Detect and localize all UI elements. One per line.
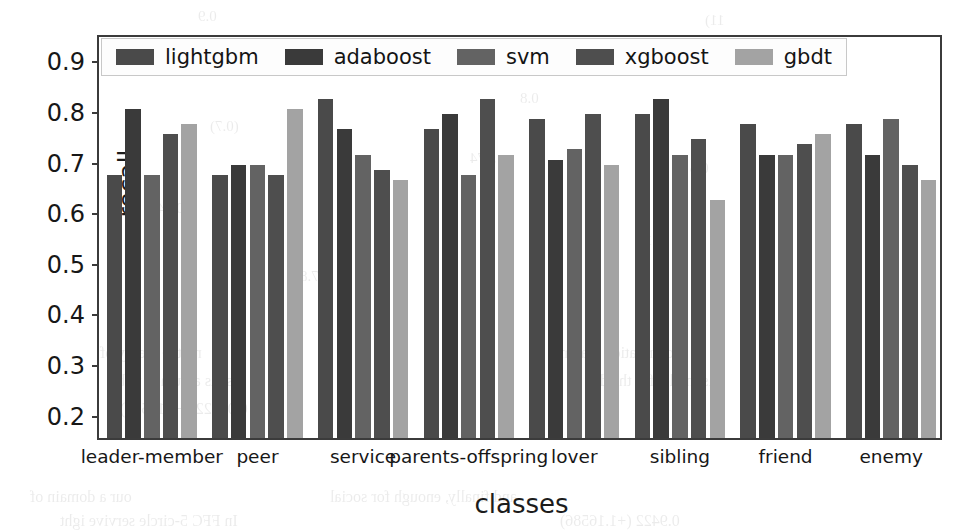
y-tick-0.2: 0.2 — [47, 405, 99, 429]
bar-svm-enemy — [883, 119, 899, 438]
y-tick-label: 0.4 — [47, 303, 92, 327]
legend-swatch-icon — [285, 49, 323, 65]
x-tick-label-friend: friend — [759, 446, 813, 467]
y-tick-mark — [92, 264, 99, 266]
y-tick-0.9: 0.9 — [47, 50, 99, 74]
bar-adaboost-peer — [231, 165, 247, 438]
bar-gbdt-enemy — [921, 180, 937, 438]
bar-svm-lover — [567, 149, 583, 438]
legend-label: svm — [506, 47, 550, 68]
bar-lightgbm-peer — [212, 175, 228, 438]
y-tick-0.7: 0.7 — [47, 152, 99, 176]
bar-gbdt-lover — [604, 165, 620, 438]
y-tick-label: 0.2 — [47, 405, 92, 429]
y-tick-label: 0.7 — [47, 152, 92, 176]
legend-label: adaboost — [334, 47, 431, 68]
bar-xgboost-parents-offspring — [480, 99, 496, 438]
bar-lightgbm-parents-offspring — [424, 129, 440, 438]
bar-adaboost-friend — [759, 155, 775, 439]
y-tick-0.8: 0.8 — [47, 101, 99, 125]
bar-lightgbm-enemy — [846, 124, 862, 438]
legend-item-gbdt[interactable]: gbdt — [735, 47, 832, 68]
bar-svm-service — [355, 155, 371, 439]
bar-adaboost-parents-offspring — [442, 114, 458, 438]
legend-swatch-icon — [457, 49, 495, 65]
bar-xgboost-service — [374, 170, 390, 438]
bar-xgboost-enemy — [902, 165, 918, 438]
bar-svm-friend — [778, 155, 794, 439]
bar-lightgbm-sibling — [635, 114, 651, 438]
x-tick-label-service: service — [330, 446, 396, 467]
y-tick-mark — [92, 416, 99, 418]
legend-item-xgboost[interactable]: xgboost — [576, 47, 709, 68]
bar-svm-parents-offspring — [461, 175, 477, 438]
x-tick-label-enemy: enemy — [859, 446, 922, 467]
y-tick-mark — [92, 61, 99, 63]
bar-svm-peer — [250, 165, 266, 438]
y-tick-mark — [92, 213, 99, 215]
bar-gbdt-friend — [815, 134, 831, 438]
bar-gbdt-parents-offspring — [498, 155, 514, 439]
bar-xgboost-peer — [268, 175, 284, 438]
legend-label: gbdt — [784, 47, 832, 68]
bar-adaboost-sibling — [653, 99, 669, 438]
plot-area: recall 0.90.80.70.60.50.40.30.2 leader-m… — [97, 35, 942, 440]
x-tick-label-parents-offspring: parents-offspring — [389, 446, 548, 467]
y-tick-mark — [92, 163, 99, 165]
chart-legend: lightgbmadaboostsvmxgboostgbdt — [101, 38, 847, 76]
bar-gbdt-leader-member — [181, 124, 197, 438]
legend-item-svm[interactable]: svm — [457, 47, 550, 68]
bar-lightgbm-lover — [529, 119, 545, 438]
y-tick-0.4: 0.4 — [47, 303, 99, 327]
bar-xgboost-friend — [797, 144, 813, 438]
y-tick-0.3: 0.3 — [47, 354, 99, 378]
y-tick-0.6: 0.6 — [47, 202, 99, 226]
y-tick-mark — [92, 314, 99, 316]
x-tick-label-leader-member: leader-member — [81, 446, 223, 467]
bar-adaboost-service — [337, 129, 353, 438]
bar-adaboost-lover — [548, 160, 564, 438]
legend-swatch-icon — [735, 49, 773, 65]
x-axis-title: classes — [99, 489, 944, 519]
bar-lightgbm-leader-member — [107, 175, 123, 438]
x-tick-label-sibling: sibling — [650, 446, 710, 467]
y-tick-mark — [92, 365, 99, 367]
y-tick-mark — [92, 112, 99, 114]
bars-layer — [99, 37, 940, 438]
bar-svm-leader-member — [144, 175, 160, 438]
bar-lightgbm-friend — [740, 124, 756, 438]
bar-adaboost-leader-member — [125, 109, 141, 438]
y-tick-0.5: 0.5 — [47, 253, 99, 277]
y-tick-label: 0.9 — [47, 50, 92, 74]
legend-item-adaboost[interactable]: adaboost — [285, 47, 431, 68]
bar-xgboost-leader-member — [163, 134, 179, 438]
legend-label: lightgbm — [165, 47, 259, 68]
x-tick-label-peer: peer — [236, 446, 278, 467]
bar-lightgbm-service — [318, 99, 334, 438]
y-tick-label: 0.6 — [47, 202, 92, 226]
legend-swatch-icon — [576, 49, 614, 65]
bar-xgboost-sibling — [691, 139, 707, 438]
bar-gbdt-peer — [287, 109, 303, 438]
legend-item-lightgbm[interactable]: lightgbm — [116, 47, 259, 68]
x-tick-label-lover: lover — [551, 446, 597, 467]
y-tick-label: 0.3 — [47, 354, 92, 378]
bar-adaboost-enemy — [865, 155, 881, 439]
bar-gbdt-service — [393, 180, 409, 438]
legend-label: xgboost — [625, 47, 709, 68]
bar-xgboost-lover — [585, 114, 601, 438]
y-tick-label: 0.8 — [47, 101, 92, 125]
legend-swatch-icon — [116, 49, 154, 65]
y-tick-label: 0.5 — [47, 253, 92, 277]
bar-svm-sibling — [672, 155, 688, 439]
bar-gbdt-sibling — [710, 200, 726, 438]
